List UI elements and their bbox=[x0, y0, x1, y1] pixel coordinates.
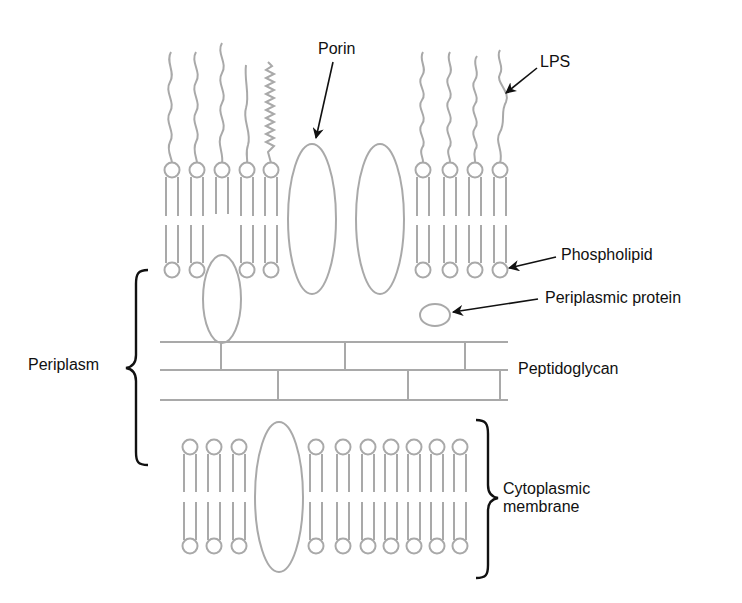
periplasmic-protein bbox=[420, 304, 450, 326]
cytoplasmic-membrane-label: Cytoplasmic membrane bbox=[503, 480, 590, 515]
phospholipid-arrow bbox=[509, 257, 556, 268]
cytoplasmic-label-line2: membrane bbox=[503, 498, 590, 516]
lps-label: LPS bbox=[540, 53, 570, 71]
porin-label: Porin bbox=[318, 40, 355, 58]
lps-chains-left bbox=[168, 43, 274, 163]
peptidoglycan-layer bbox=[160, 342, 508, 400]
porin-2 bbox=[356, 144, 404, 294]
cytoplasmic-label-line1: Cytoplasmic bbox=[503, 480, 590, 498]
peptidoglycan-label: Peptidoglycan bbox=[518, 360, 619, 378]
phospholipid-label: Phospholipid bbox=[561, 246, 653, 264]
cytoplasmic-membrane-brace bbox=[476, 420, 498, 578]
membrane-protein bbox=[255, 422, 303, 572]
periplasmic-protein-label: Periplasmic protein bbox=[545, 289, 681, 307]
periplasm-label: Periplasm bbox=[28, 356, 99, 374]
porin-arrow bbox=[316, 62, 333, 138]
anchored-protein bbox=[203, 255, 241, 343]
porin-1 bbox=[288, 144, 336, 294]
cytoplasmic-membrane-lipids bbox=[183, 440, 468, 554]
periplasm-brace bbox=[126, 270, 148, 465]
lps-arrow bbox=[506, 68, 537, 93]
lps-chains-right bbox=[420, 50, 507, 163]
periplasmic-protein-arrow bbox=[453, 299, 538, 312]
